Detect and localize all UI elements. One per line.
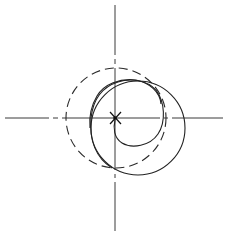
spiral-trajectory — [91, 80, 164, 168]
outer-orbit-circle — [91, 81, 185, 175]
spiral-trajectory-strand — [90, 80, 161, 128]
orbit-diagram — [0, 0, 225, 236]
